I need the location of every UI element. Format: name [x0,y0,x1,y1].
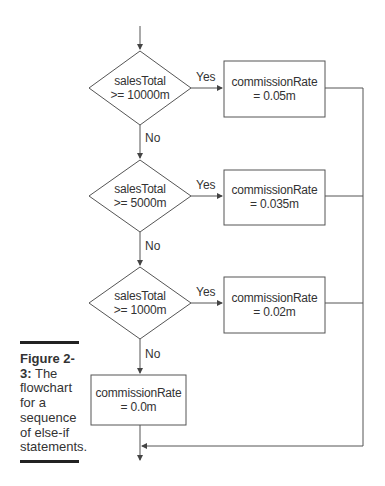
decision-3-line2: >= 1000m [95,303,185,317]
default-action-line1: commissionRate [91,386,186,400]
decision-2-line1: salesTotal [95,182,185,196]
action-3-line2: = 0.02m [224,305,325,319]
action-1-line2: = 0.05m [224,89,325,103]
default-action: commissionRate = 0.0m [91,386,186,414]
action-3: commissionRate = 0.02m [224,291,325,319]
action-2: commissionRate = 0.035m [224,183,325,211]
figure-caption: Figure 2-3: The flowchart for a sequence… [20,352,77,455]
decision-1-line1: salesTotal [95,74,185,88]
decision-1-yes-label: Yes [196,70,216,84]
decision-3-line1: salesTotal [95,289,185,303]
action-1-line1: commissionRate [224,75,325,89]
action-3-line1: commissionRate [224,291,325,305]
decision-1-line2: >= 10000m [95,88,185,102]
decision-2-yes-label: Yes [196,178,216,192]
decision-3-no-label: No [145,347,160,361]
action-1: commissionRate = 0.05m [224,75,325,103]
default-action-line2: = 0.0m [91,400,186,414]
caption-bottom-rule [20,460,79,463]
decision-2-no-label: No [145,239,160,253]
decision-1: salesTotal >= 10000m [95,74,185,102]
caption-top-rule [20,341,79,344]
decision-2: salesTotal >= 5000m [95,182,185,210]
decision-3: salesTotal >= 1000m [95,289,185,317]
decision-1-no-label: No [145,131,160,145]
action-2-line2: = 0.035m [224,197,325,211]
decision-3-yes-label: Yes [196,285,216,299]
decision-2-line2: >= 5000m [95,196,185,210]
action-2-line1: commissionRate [224,183,325,197]
